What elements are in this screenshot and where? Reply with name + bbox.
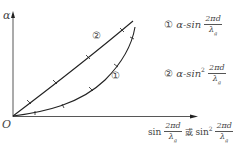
legend-1-prefix: α-sin [176,19,201,30]
y-axis-label: α [3,10,10,21]
legend-1-fraction: 2πd λg [204,15,221,36]
x-label-sin1: sin [148,127,161,137]
x-axis-arrow-icon [190,115,198,119]
legend-item-2: ② α-sin2 2πd λg [164,64,226,85]
x-label-num-2: 2πd [215,122,232,132]
x-label-fraction-2: 2πd λg [215,122,232,143]
curve-2-marker: ② [92,31,101,41]
x-label-den-1-sub: g [174,137,177,143]
legend-2-num: 2πd [208,64,225,74]
x-axis-label: sin 2πd λg 或 sin2 2πd λg [148,122,233,143]
x-label-sin2: sin [195,127,208,137]
curve-1-marker: ① [111,71,120,81]
legend-1-den: λg [204,25,221,36]
y-axis-arrow-icon [11,11,15,18]
x-label-den-2: λg [215,132,232,143]
legend-2-den-sub: g [218,79,221,85]
x-label-den-1: λg [164,132,181,143]
x-label-fraction-1: 2πd λg [164,122,181,143]
legend-2-den: λg [208,74,225,85]
legend-item-1: ① α-sin 2πd λg [164,15,222,36]
legend-1-num: 2πd [204,15,221,25]
legend-2-fraction: 2πd λg [208,64,225,85]
origin-label: O [2,119,11,130]
legend-2-sup: 2 [201,66,205,73]
x-label-connector: 或 [185,128,193,137]
legend-2-marker: ② [164,68,173,79]
x-label-num-1: 2πd [164,122,181,132]
x-label-sup: 2 [209,125,213,132]
x-label-den-2-sub: g [225,137,228,143]
legend-1-marker: ① [164,19,173,30]
curve-2-ticks [27,28,124,104]
legend-1-den-sub: g [214,30,217,36]
legend-2-prefix: α-sin [176,68,201,79]
